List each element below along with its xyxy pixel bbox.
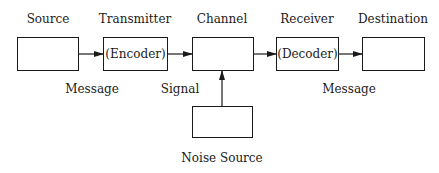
- message-out-label: Message: [322, 82, 376, 96]
- signal-label: Signal: [161, 82, 199, 96]
- message-in-label: Message: [65, 82, 119, 96]
- communication-diagram: Source Transmitter Channel Receiver Dest…: [0, 0, 439, 173]
- noise-source-title: Noise Source: [181, 151, 262, 165]
